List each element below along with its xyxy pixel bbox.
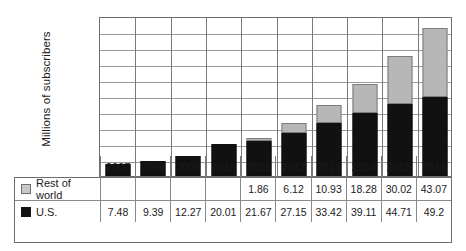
table-cell-rest-of-world-2009 — [170, 178, 205, 200]
table-header-2007: 2007 — [100, 156, 135, 178]
bar-slot-2007 — [100, 18, 135, 176]
bar-slot-2008 — [135, 18, 170, 176]
table-cell-us-2010: 20.01 — [205, 201, 240, 222]
table-cell-us-2009: 12.27 — [170, 201, 205, 222]
y-axis-title: Millions of subscribers — [40, 9, 58, 169]
table-cell-rest-of-world-2007 — [100, 178, 135, 200]
bar-slot-2010 — [206, 18, 241, 176]
bar-slot-2013 — [312, 18, 347, 176]
table-cell-us-2008: 9.39 — [135, 201, 170, 222]
table-header-2010: 2010 — [205, 156, 240, 178]
table-cell-us-2015: 44.71 — [381, 201, 416, 222]
bar-slot-2014 — [347, 18, 382, 176]
bar-slot-2012 — [277, 18, 312, 176]
table-cell-us-2012: 27.15 — [275, 201, 310, 222]
legend-label: Rest of world — [36, 177, 100, 201]
data-table: 2007200820092010201120122013201420152016… — [14, 177, 452, 243]
table-cell-us-2013: 33.42 — [311, 201, 346, 222]
legend-swatch-us — [21, 207, 31, 217]
table-cell-us-2014: 39.11 — [346, 201, 381, 222]
table-header-2014: 2014 — [346, 156, 381, 178]
table-cell-rest-of-world-2008 — [135, 178, 170, 200]
bar-slot-2011 — [241, 18, 276, 176]
table-cell-rest-of-world-2014: 18.28 — [346, 178, 381, 200]
table-cell-us-2016: 49.2 — [416, 201, 451, 222]
table-cell-us-2011: 21.67 — [240, 201, 275, 222]
table-cell-rest-of-world-2013: 10.93 — [311, 178, 346, 200]
table-row: U.S.7.489.3912.2720.0121.6727.1533.4239.… — [15, 200, 451, 222]
legend-swatch-rest-of-world — [21, 184, 31, 194]
table-header-2013: 2013 — [311, 156, 346, 178]
table-cell-rest-of-world-2015: 30.02 — [381, 178, 416, 200]
bar-segment-rest-of-world-2013 — [317, 105, 342, 122]
bar-slot-2009 — [171, 18, 206, 176]
table-row: Rest of world1.866.1210.9318.2830.0243.0… — [15, 178, 451, 200]
bar-segment-rest-of-world-2016 — [423, 28, 448, 97]
table-cell-us-2007: 7.48 — [100, 201, 135, 222]
table-header-2016: 2016 — [416, 156, 451, 178]
table-header-2015: 2015 — [381, 156, 416, 178]
bar-slot-2015 — [382, 18, 417, 176]
stacked-bar-chart-figure: Millions of subscribers 1009080706050403… — [0, 0, 466, 251]
bar-segment-rest-of-world-2015 — [388, 56, 413, 104]
legend-item-us[interactable]: U.S. — [15, 201, 100, 222]
table-header-2009: 2009 — [170, 156, 205, 178]
table-body: Rest of world1.866.1210.9318.2830.0243.0… — [15, 178, 451, 222]
bar-slot-2016 — [418, 18, 453, 176]
table-header-2012: 2012 — [275, 156, 310, 178]
table-header-corner — [15, 156, 100, 178]
table-cell-rest-of-world-2010 — [205, 178, 240, 200]
table-header-2011: 2011 — [240, 156, 275, 178]
table-header-2008: 2008 — [135, 156, 170, 178]
table-cell-rest-of-world-2012: 6.12 — [275, 178, 310, 200]
plot-area — [99, 17, 452, 177]
table-header-row: 2007200820092010201120122013201420152016 — [15, 156, 451, 178]
bar-2016[interactable] — [423, 28, 448, 176]
table-cell-rest-of-world-2011: 1.86 — [240, 178, 275, 200]
bar-segment-rest-of-world-2014 — [352, 84, 377, 113]
legend-label: U.S. — [36, 206, 57, 218]
legend-item-rest-of-world[interactable]: Rest of world — [15, 178, 100, 200]
table-cell-rest-of-world-2016: 43.07 — [416, 178, 451, 200]
bar-segment-rest-of-world-2012 — [282, 123, 307, 133]
